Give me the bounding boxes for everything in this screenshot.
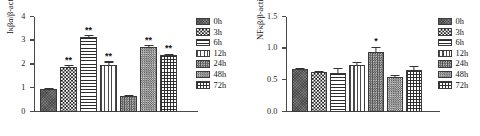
legend-swatch-icon bbox=[196, 50, 210, 58]
error-bar bbox=[148, 46, 149, 47]
y-tick-3: 1.5 bbox=[282, 16, 287, 17]
legend-item-6h: 6h bbox=[196, 38, 226, 47]
legend-swatch-icon bbox=[196, 28, 210, 36]
bar-group-right: * bbox=[292, 17, 428, 112]
bar-6h bbox=[80, 37, 97, 112]
bar-72h bbox=[406, 70, 422, 112]
legend-label: 48h bbox=[456, 70, 469, 79]
bar-slot bbox=[349, 17, 365, 112]
error-bar bbox=[375, 48, 376, 53]
bar-slot bbox=[330, 17, 346, 112]
error-bar bbox=[299, 69, 300, 70]
bar-12h bbox=[100, 65, 117, 113]
legend-label: 12h bbox=[456, 49, 469, 58]
error-bar-cap bbox=[410, 66, 419, 67]
error-bar-cap bbox=[334, 68, 343, 69]
y-axis-title-right: NFκβ/β-actin bbox=[256, 0, 265, 40]
legend-item-24h: 24h bbox=[438, 59, 468, 68]
bar-slot bbox=[120, 17, 137, 112]
significance-marker: ** bbox=[65, 57, 72, 63]
legend-item-48h: 48h bbox=[438, 70, 468, 79]
legend-swatch-icon bbox=[438, 60, 452, 68]
legend-label: 3h bbox=[456, 28, 464, 37]
error-bar bbox=[108, 63, 109, 66]
legend-item-72h: 72h bbox=[438, 81, 468, 90]
y-tick-label-3: 1.5 bbox=[267, 11, 278, 20]
significance-marker: ** bbox=[145, 37, 152, 43]
chart-panel-nfkb: NFκβ/β-actin 0.0 0.5 1.0 1.5 * 0h3h6h12h… bbox=[240, 0, 480, 136]
y-tick-label-2: 1.0 bbox=[267, 43, 278, 52]
error-bar-cap bbox=[353, 62, 362, 63]
y-tick-0: 0.0 bbox=[282, 111, 287, 112]
bar-slot bbox=[40, 17, 57, 112]
legend-label: 12h bbox=[214, 49, 227, 58]
y-tick-label-0: 0 bbox=[21, 106, 25, 115]
y-tick-label-1: 0.5 bbox=[267, 75, 278, 84]
bar-3h bbox=[311, 72, 327, 112]
bar-24h bbox=[368, 52, 384, 112]
error-bar-cap bbox=[144, 45, 153, 46]
legend-label: 24h bbox=[456, 59, 469, 68]
y-tick-label-0: 0.0 bbox=[267, 106, 278, 115]
legend-label: 24h bbox=[214, 59, 227, 68]
significance-marker: ** bbox=[165, 45, 172, 51]
bar-0h bbox=[40, 89, 57, 112]
bar-group-left: ********** bbox=[40, 17, 186, 112]
y-axis-line-right bbox=[286, 17, 287, 112]
bar-slot: ** bbox=[140, 17, 157, 112]
legend-left: 0h3h6h12h24h48h72h bbox=[196, 17, 226, 90]
error-bar-cap bbox=[124, 95, 133, 96]
y-tick-0: 0 bbox=[30, 111, 35, 112]
legend-item-0h: 0h bbox=[438, 17, 468, 26]
legend-label: 48h bbox=[214, 70, 227, 79]
bar-slot: ** bbox=[60, 17, 77, 112]
bar-slot: ** bbox=[100, 17, 117, 112]
error-bar bbox=[68, 66, 69, 67]
legend-swatch-icon bbox=[196, 39, 210, 47]
figure-container: Iκβα/β-actin 0 1 2 3 4 ********** 0h3h6h… bbox=[0, 0, 480, 136]
significance-marker: ** bbox=[105, 53, 112, 59]
bar-3h bbox=[60, 67, 77, 112]
y-tick-label-2: 2 bbox=[21, 59, 25, 68]
error-bar-cap bbox=[44, 88, 53, 89]
bar-72h bbox=[160, 55, 177, 112]
error-bar bbox=[48, 89, 49, 90]
legend-item-48h: 48h bbox=[196, 70, 226, 79]
error-bar-cap bbox=[84, 35, 93, 36]
error-bar-cap bbox=[104, 61, 113, 62]
plot-area-left: 0 1 2 3 4 ********** bbox=[34, 17, 186, 112]
legend-label: 0h bbox=[214, 17, 222, 26]
bar-48h bbox=[140, 47, 157, 112]
y-tick-4: 4 bbox=[30, 16, 35, 17]
legend-item-3h: 3h bbox=[196, 28, 226, 37]
y-tick-label-4: 4 bbox=[21, 11, 25, 20]
legend-item-72h: 72h bbox=[196, 81, 226, 90]
bar-6h bbox=[330, 73, 346, 112]
legend-label: 6h bbox=[456, 38, 464, 47]
chart-panel-ikba: Iκβα/β-actin 0 1 2 3 4 ********** 0h3h6h… bbox=[0, 0, 240, 136]
legend-swatch-icon bbox=[438, 81, 452, 89]
error-bar bbox=[128, 96, 129, 97]
legend-item-12h: 12h bbox=[196, 49, 226, 58]
bar-slot: ** bbox=[160, 17, 177, 112]
legend-label: 72h bbox=[456, 81, 469, 90]
error-bar bbox=[168, 55, 169, 56]
legend-swatch-icon bbox=[438, 28, 452, 36]
error-bar bbox=[356, 63, 357, 66]
legend-swatch-icon bbox=[438, 18, 452, 26]
legend-right: 0h3h6h12h24h48h72h bbox=[438, 17, 468, 90]
y-tick-1: 1 bbox=[30, 87, 35, 88]
legend-item-3h: 3h bbox=[438, 28, 468, 37]
legend-label: 3h bbox=[214, 28, 222, 37]
error-bar bbox=[88, 36, 89, 38]
bar-slot bbox=[292, 17, 308, 112]
bar-48h bbox=[387, 77, 403, 112]
y-tick-label-1: 1 bbox=[21, 82, 25, 91]
bar-slot bbox=[406, 17, 422, 112]
legend-item-0h: 0h bbox=[196, 17, 226, 26]
legend-label: 72h bbox=[214, 81, 227, 90]
y-axis-title-left: Iκβα/β-actin bbox=[6, 0, 15, 34]
y-tick-2: 1.0 bbox=[282, 47, 287, 48]
error-bar-cap bbox=[315, 71, 324, 72]
bar-0h bbox=[292, 69, 308, 112]
